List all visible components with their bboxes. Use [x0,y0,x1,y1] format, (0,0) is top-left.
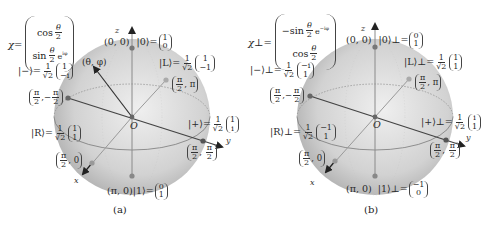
dot-one [129,173,134,178]
dot-plus [200,138,205,143]
dot-minus [307,93,312,98]
y-axis-label: y [226,136,231,145]
x-axis-label: x [310,178,315,187]
dot-R [89,160,94,165]
coord-plus: π2, π2 [187,144,217,161]
dot-L [163,77,168,82]
state-plus-label: |+⟩=1√21i [188,116,239,133]
state-R-label: |R⟩⊥=1√2−11 [270,124,336,141]
coord-L: π2, π [172,76,198,93]
panel-b: χ⊥ = −sin θ2 e−iφ cos θ2 z y x O (0, 0) … [242,0,484,225]
panel-a: χ = cos θ2 sin θ2 eiφ z y x O (0, 0) |0⟩… [0,0,242,225]
coord-minus: π2,−π2 [29,89,63,106]
state-minus-label: |−⟩=1√21−i [18,63,73,80]
state-L-label: |L⟩⊥=1√211 [404,54,462,71]
coord-R: π2, 0 [299,150,325,167]
state-zero-label: (0, 0) |0⟩=10 [104,34,172,51]
dot-one [372,173,377,178]
state-one-label: (π, 0)|1⟩=01 [107,183,168,200]
coord-minus: π2,−π2 [270,87,304,104]
x-axis-label: x [74,176,79,185]
coord-plus: π2, π2 [430,142,460,159]
dot-origin [130,115,135,120]
origin-label: O [373,120,381,130]
caption-a: (a) [113,204,127,215]
state-one-label: (π, 0) |1⟩⊥=−10 [346,181,428,198]
origin-label: O [130,121,138,131]
dot-L [406,76,411,81]
coord-L: π2, π [415,74,441,91]
state-R-label: |R⟩=1√211 [31,125,81,142]
dot-R [332,158,337,163]
state-plus-label: |+⟩⊥=1√2i1 [421,114,481,131]
state-L-label: |L⟩=1√21−1 [159,55,215,72]
state-zero-label: (0, 0) |0⟩⊥=01 [346,32,423,49]
caption-b: (b) [364,204,378,215]
y-axis-label: y [466,133,471,142]
state-minus-label: |−⟩⊥=1√2−i1 [250,62,314,79]
general-point-label: (θ, φ) [82,58,106,67]
dot-minus [65,95,70,100]
coord-R: π2, 0 [56,152,82,169]
